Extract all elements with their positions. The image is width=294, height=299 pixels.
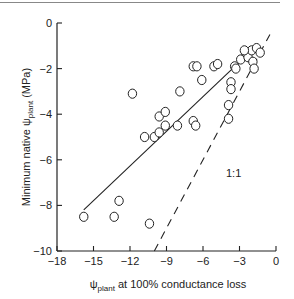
- y-tick-label: −4: [39, 108, 52, 120]
- data-point: [256, 48, 264, 57]
- data-point: [198, 75, 206, 84]
- data-point: [145, 219, 153, 228]
- data-point: [161, 107, 169, 116]
- y-tick-label: 0: [46, 17, 52, 29]
- data-point: [176, 87, 184, 96]
- scatter-chart: −18−15−12−9−6−300−2−4−6−8−10 1:1 ψplant …: [0, 0, 294, 299]
- y-axis-label: Minimum native ψplant (MPa): [20, 68, 35, 206]
- y-tick-label: −2: [39, 63, 52, 75]
- data-point: [192, 121, 200, 130]
- y-tick-label: −8: [39, 199, 52, 211]
- x-tick-label: −9: [160, 255, 173, 267]
- data-point: [173, 121, 181, 130]
- data-point: [140, 132, 148, 141]
- data-point: [193, 62, 201, 71]
- data-point: [224, 100, 232, 109]
- data-point: [110, 212, 118, 221]
- y-tick-label: −10: [33, 245, 52, 257]
- x-tick-label: 0: [273, 255, 279, 267]
- identity-line-label: 1:1: [226, 167, 241, 179]
- data-point: [227, 85, 235, 94]
- data-point: [213, 59, 221, 68]
- data-point: [115, 196, 123, 205]
- data-point: [232, 64, 240, 73]
- x-tick-label: −6: [197, 255, 210, 267]
- data-point: [161, 121, 169, 130]
- data-point: [250, 64, 258, 73]
- x-tick-label: −3: [233, 255, 246, 267]
- x-tick-label: −12: [121, 255, 140, 267]
- x-tick-label: −15: [84, 255, 103, 267]
- y-tick-label: −6: [39, 154, 52, 166]
- data-point: [224, 114, 232, 123]
- data-points: [80, 43, 265, 228]
- data-point: [240, 46, 248, 55]
- x-axis-label: ψplant at 100% conductance loss: [90, 278, 247, 293]
- data-point: [80, 212, 88, 221]
- regression-line: [84, 48, 254, 210]
- data-point: [128, 89, 136, 98]
